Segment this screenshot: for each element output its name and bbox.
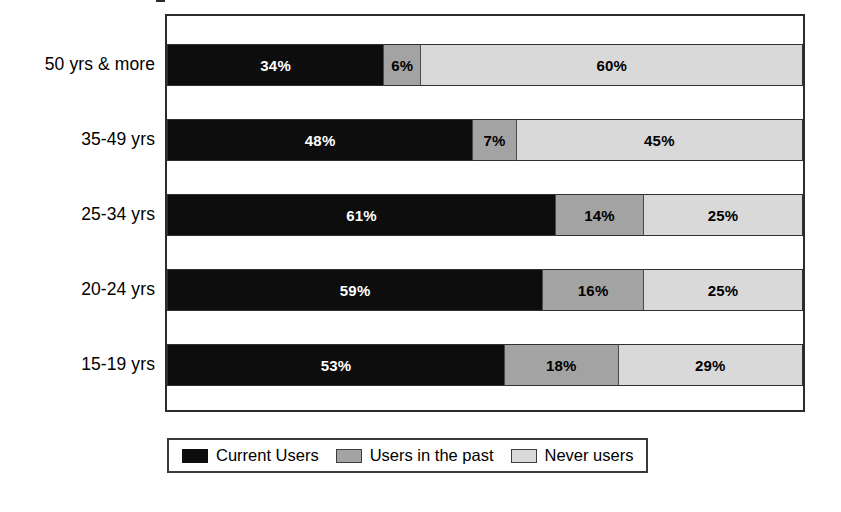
bar-segment: 45% (517, 119, 803, 161)
category-label: 15-19 yrs (0, 356, 155, 374)
category-label: 20-24 yrs (0, 281, 155, 299)
bar-segment: 25% (644, 194, 803, 236)
bar-value-label: 14% (584, 208, 615, 223)
bar-row: 53%18%29% (167, 344, 803, 386)
bar-segment: 53% (167, 344, 504, 386)
bar-row: 34%6%60% (167, 44, 803, 86)
bar-segment: 59% (167, 269, 542, 311)
plot-area: 34%6%60%48%7%45%61%14%25%59%16%25%53%18%… (165, 14, 805, 412)
bar-segment: 6% (383, 44, 421, 86)
legend-entry[interactable]: Users in the past (336, 447, 494, 464)
bar-value-label: 16% (578, 283, 609, 298)
legend-entry[interactable]: Current Users (182, 447, 319, 464)
bar-value-label: 60% (596, 58, 627, 73)
bar-row: 48%7%45% (167, 119, 803, 161)
category-label: 25-34 yrs (0, 206, 155, 224)
category-label: 35-49 yrs (0, 131, 155, 149)
bar-value-label: 53% (321, 358, 352, 373)
legend-swatch-icon (511, 449, 537, 463)
bar-value-label: 25% (708, 208, 739, 223)
bar-segment: 25% (644, 269, 803, 311)
bar-value-label: 18% (546, 358, 577, 373)
bar-segment: 18% (504, 344, 618, 386)
bar-value-label: 45% (644, 133, 675, 148)
bar-segment: 61% (167, 194, 555, 236)
legend-entry[interactable]: Never users (511, 447, 634, 464)
chart-legend: Current UsersUsers in the pastNever user… (167, 438, 648, 473)
stacked-bar-chart: 50 yrs & more35-49 yrs25-34 yrs20-24 yrs… (0, 0, 841, 512)
axis-tick (156, 0, 165, 2)
bar-row: 59%16%25% (167, 269, 803, 311)
bar-value-label: 7% (483, 133, 505, 148)
bar-segment: 34% (167, 44, 383, 86)
category-axis-labels: 50 yrs & more35-49 yrs25-34 yrs20-24 yrs… (0, 14, 155, 412)
plot-inner: 34%6%60%48%7%45%61%14%25%59%16%25%53%18%… (167, 16, 803, 410)
legend-label: Never users (545, 447, 634, 464)
category-label: 50 yrs & more (0, 56, 155, 74)
bar-segment: 14% (555, 194, 644, 236)
bar-value-label: 48% (305, 133, 336, 148)
bar-value-label: 61% (346, 208, 377, 223)
legend-swatch-icon (336, 449, 362, 463)
bar-segment: 16% (542, 269, 644, 311)
bar-value-label: 59% (340, 283, 371, 298)
legend-swatch-icon (182, 449, 208, 463)
bar-segment: 7% (472, 119, 517, 161)
legend-label: Users in the past (370, 447, 494, 464)
bar-segment: 48% (167, 119, 472, 161)
bar-segment: 29% (619, 344, 803, 386)
bar-value-label: 29% (695, 358, 726, 373)
bar-value-label: 6% (391, 58, 413, 73)
bar-segment: 60% (421, 44, 803, 86)
legend-label: Current Users (216, 447, 319, 464)
bar-row: 61%14%25% (167, 194, 803, 236)
bar-value-label: 34% (260, 58, 291, 73)
bar-value-label: 25% (708, 283, 739, 298)
